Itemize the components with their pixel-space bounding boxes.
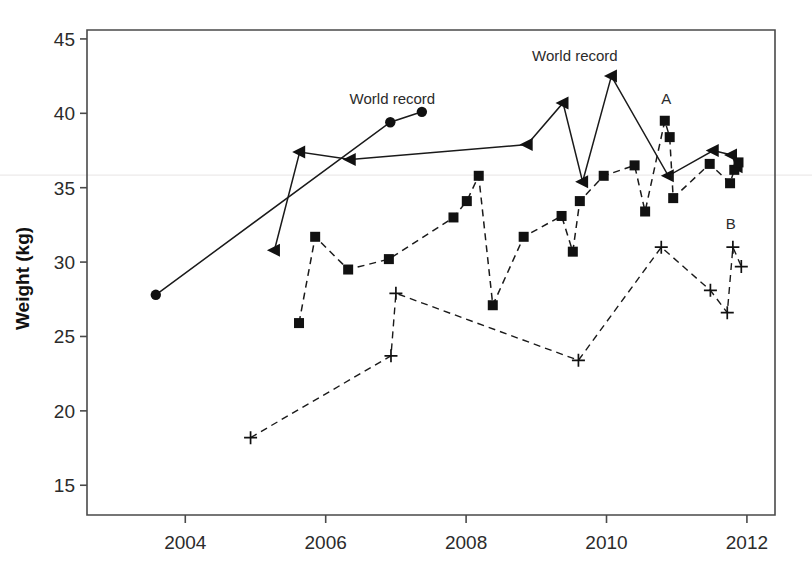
x-tick-label: 2012 [726,532,768,553]
marker-left-triangle [555,96,568,109]
marker-square [519,232,529,242]
marker-plus [721,306,734,319]
chart-canvas: 1520253035404520042006200820102012 World… [0,0,812,566]
chart-figure: Weight (kg) 1520253035404520042006200820… [0,0,812,566]
marker-square [733,157,743,167]
y-tick-label: 15 [54,475,75,496]
marker-square [474,171,484,181]
marker-square [640,207,650,217]
series-line-circles [156,112,422,295]
annotation-label: World record [350,90,436,107]
marker-square [630,160,640,170]
marker-plus [389,287,402,300]
marker-plus [384,349,397,362]
y-tick-label: 30 [54,252,75,273]
marker-plus [572,354,585,367]
marker-square [343,265,353,275]
series-circles [151,107,427,300]
marker-square [575,196,585,206]
marker-square [488,300,498,310]
y-tick-label: 40 [54,103,75,124]
marker-square [599,171,609,181]
marker-square [668,193,678,203]
marker-square [665,132,675,142]
marker-square [448,212,458,222]
y-tick-label: 20 [54,401,75,422]
series-line-plus [251,247,742,437]
marker-plus [244,431,257,444]
axis-ticks [80,39,747,523]
marker-left-triangle [520,138,533,151]
series-squares [294,116,743,328]
x-tick-label: 2004 [164,532,207,553]
marker-circle [417,107,427,117]
y-tick-label: 35 [54,178,75,199]
annotation-label: World record [532,47,618,64]
y-tick-label: 45 [54,29,75,50]
marker-left-triangle [706,144,719,157]
series-plus [244,241,748,444]
y-tick-label: 25 [54,326,75,347]
x-tick-label: 2010 [585,532,627,553]
marker-left-triangle [267,244,280,257]
annotation-label: A [661,90,671,107]
marker-plus [726,241,739,254]
marker-square [310,232,320,242]
marker-circle [385,117,395,127]
marker-square [462,196,472,206]
marker-plus [735,260,748,273]
y-axis-label: Weight (kg) [12,227,34,330]
x-tick-label: 2006 [305,532,347,553]
marker-square [557,211,567,221]
marker-square [568,247,578,257]
data-series-group [151,70,748,445]
marker-circle [151,290,161,300]
series-line-squares [299,121,739,323]
marker-square [294,318,304,328]
annotation-group: World recordWorld recordAB [350,47,736,232]
marker-square [705,159,715,169]
annotation-label: B [726,215,736,232]
x-tick-label: 2008 [445,532,487,553]
marker-square [660,116,670,126]
marker-square [384,254,394,264]
marker-square [725,178,735,188]
